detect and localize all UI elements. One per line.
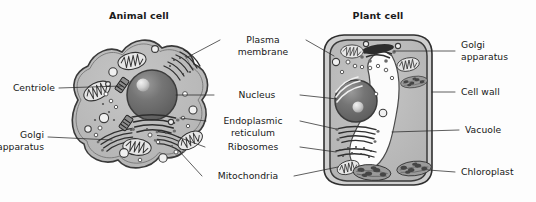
label-golgi-animal-line1: Golgi [20, 129, 44, 140]
animal-cell-title: Animal cell [109, 10, 169, 21]
label-mitochondria: Mitochondria [218, 170, 278, 181]
plant-cell-group: Plant cell [324, 10, 432, 185]
label-ribosomes: Ribosomes [228, 141, 279, 152]
cell-diagram-figure: Animal cell [0, 0, 536, 202]
diagram-canvas: Animal cell [0, 0, 536, 202]
label-cell-wall: Cell wall [461, 86, 500, 97]
label-golgi-animal-line2: apparatus [0, 141, 44, 152]
leader-mito-animal [180, 152, 202, 176]
label-er-line2: reticulum [231, 127, 275, 138]
plant-mitochondrion-topleft [341, 45, 364, 58]
plant-nucleolus [353, 102, 364, 113]
animal-nucleolus [137, 79, 150, 92]
label-chloroplast: Chloroplast [461, 166, 514, 177]
plant-cell-title: Plant cell [353, 10, 404, 21]
label-centriole: Centriole [13, 82, 55, 93]
label-golgi-plant-line1: Golgi [461, 39, 485, 50]
label-vacuole: Vacuole [465, 124, 502, 135]
label-nucleus: Nucleus [239, 89, 276, 100]
animal-nucleus [127, 70, 177, 120]
label-plasma-membrane-line2: membrane [238, 46, 289, 57]
label-er-line1: Endoplasmic [224, 115, 283, 126]
leader-plasma-animal [186, 40, 220, 58]
animal-cell-group: Animal cell [72, 10, 207, 168]
label-golgi-plant-line2: apparatus [461, 51, 508, 62]
label-plasma-membrane-line1: Plasma [246, 34, 279, 45]
